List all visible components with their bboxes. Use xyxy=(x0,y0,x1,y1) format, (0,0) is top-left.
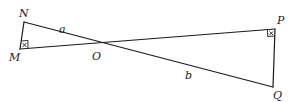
geometry-diagram: N M O P Q a b xyxy=(0,0,292,102)
label-segment-b: b xyxy=(185,69,192,82)
label-Q: Q xyxy=(273,89,282,102)
right-angle-mark-P xyxy=(268,30,275,37)
label-segment-a: a xyxy=(59,23,66,36)
segment-PQ xyxy=(273,29,275,87)
right-angle-mark-M xyxy=(21,41,28,49)
label-M: M xyxy=(8,51,21,64)
label-O: O xyxy=(92,50,101,63)
label-N: N xyxy=(18,7,29,20)
label-P: P xyxy=(276,14,285,27)
segment-NM xyxy=(20,22,24,49)
